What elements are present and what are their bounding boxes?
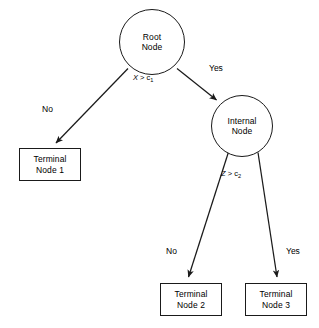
node-terminal-1[interactable]: Terminal Node 1 (19, 148, 81, 181)
internal-condition-subscript: 2 (238, 173, 241, 179)
node-root[interactable]: Root Node (119, 9, 185, 75)
decision-tree-diagram: Root Node Internal Node Terminal Node 1 … (0, 0, 319, 328)
root-condition-subscript: 1 (150, 77, 153, 83)
node-terminal-3-line1: Terminal (260, 289, 293, 300)
node-terminal-2-line1: Terminal (175, 289, 208, 300)
node-internal[interactable]: Internal Node (211, 95, 273, 157)
node-terminal-1-line1: Terminal (34, 154, 67, 165)
node-root-line1: Root (143, 32, 161, 43)
node-terminal-2[interactable]: Terminal Node 2 (160, 283, 222, 316)
edge-internal-to-terminal3 (258, 153, 277, 278)
node-terminal-3[interactable]: Terminal Node 3 (245, 283, 307, 316)
node-terminal-2-line2: Node 2 (177, 300, 205, 311)
edge-label-root-yes: Yes (209, 63, 223, 73)
node-terminal-3-line2: Node 3 (262, 300, 290, 311)
node-root-line2: Node (142, 42, 163, 53)
node-terminal-1-line2: Node 1 (36, 165, 64, 176)
edge-root-to-terminal1 (56, 69, 128, 144)
edge-label-internal-no: No (166, 246, 177, 256)
edge-root-to-internal (177, 69, 217, 101)
edge-label-root-no: No (42, 104, 53, 114)
node-internal-line1: Internal (227, 116, 256, 127)
root-split-condition: X > c1 (133, 73, 153, 83)
node-internal-line2: Node (232, 126, 253, 137)
internal-split-condition: Z > c2 (221, 169, 241, 179)
edge-label-internal-yes: Yes (286, 246, 300, 256)
